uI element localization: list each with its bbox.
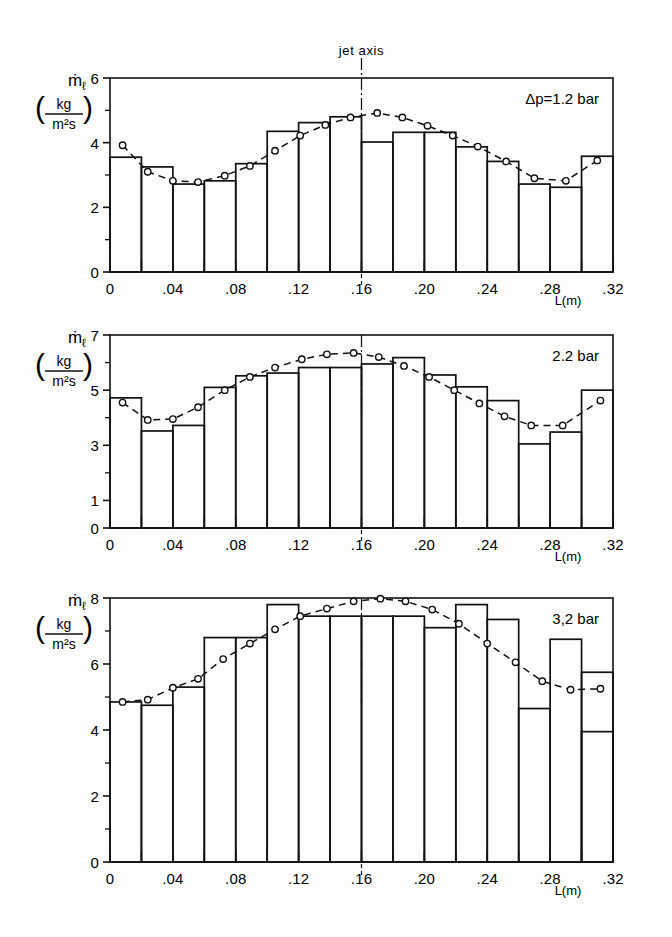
histogram-bar	[550, 639, 581, 862]
curve-marker	[195, 404, 201, 410]
curve-marker	[170, 416, 176, 422]
x-tick-label: .20	[414, 280, 435, 297]
histogram-bar	[236, 164, 267, 272]
curve-marker	[195, 179, 201, 185]
histogram-bar	[267, 605, 298, 862]
x-axis-label: L(m)	[555, 293, 582, 308]
curve-marker	[597, 686, 603, 692]
curve-marker	[247, 163, 253, 169]
histogram-bar	[236, 638, 267, 862]
y-tick-label: 7	[90, 327, 99, 344]
x-tick-label: .20	[414, 870, 435, 887]
curve-marker	[376, 354, 382, 360]
x-tick-label: .12	[288, 870, 309, 887]
curve-marker	[539, 678, 545, 684]
curve-marker	[195, 676, 201, 682]
x-tick-label: .32	[602, 870, 623, 887]
histogram-bar	[456, 605, 487, 862]
histogram-bar	[519, 184, 550, 272]
y-tick-label: 3	[90, 437, 99, 454]
chart-panel-2: 013570.04.08.12.16.20.24.28.322.2 barṁℓ…	[35, 327, 624, 564]
histogram-bar	[204, 638, 235, 862]
y-axis-symbol: ṁℓ	[68, 591, 86, 613]
curve-marker	[449, 132, 455, 138]
unit-denominator: m²s	[52, 636, 75, 652]
curve-marker	[145, 169, 151, 175]
curve-marker	[426, 374, 432, 380]
x-axis-label: L(m)	[555, 549, 582, 564]
x-tick-label: .32	[602, 280, 623, 297]
curve-marker	[119, 142, 125, 148]
histogram-bar	[550, 187, 581, 272]
curve-marker	[402, 598, 408, 604]
histogram-bar	[110, 398, 141, 528]
x-tick-label: .24	[477, 280, 498, 297]
histogram-bar	[456, 387, 487, 528]
histogram-bar	[141, 431, 172, 528]
histogram-bar	[267, 373, 298, 528]
x-tick-label: .12	[288, 280, 309, 297]
curve-marker	[220, 656, 226, 662]
histogram-bar	[204, 387, 235, 528]
y-tick-label: 2	[90, 788, 99, 805]
pressure-annotation: 2.2 bar	[552, 347, 599, 364]
curve-marker	[299, 356, 305, 362]
curve-marker	[475, 143, 481, 149]
y-axis-unit: ()kgm²s	[35, 91, 93, 132]
fitted-curve	[123, 113, 598, 182]
x-tick-label: .08	[225, 870, 246, 887]
pressure-annotation: Δp=1.2 bar	[525, 90, 599, 107]
curve-marker	[512, 659, 518, 665]
curve-marker	[401, 363, 407, 369]
histogram-bar	[582, 390, 613, 528]
histogram-bar	[424, 132, 455, 272]
y-tick-label: 8	[90, 590, 99, 607]
pressure-annotation: 3,2 bar	[552, 610, 599, 627]
histogram-bar	[362, 364, 393, 528]
histogram-bar	[236, 376, 267, 528]
y-tick-label: 0	[90, 520, 99, 537]
curve-marker	[424, 123, 430, 129]
x-tick-label: .24	[477, 536, 498, 553]
curve-marker	[456, 621, 462, 627]
curve-marker	[322, 122, 328, 128]
curve-marker	[222, 387, 228, 393]
x-tick-label: .04	[162, 870, 183, 887]
y-tick-label: 6	[90, 70, 99, 87]
x-tick-label: .08	[225, 280, 246, 297]
histogram-bar	[141, 167, 172, 272]
x-tick-label: .12	[288, 536, 309, 553]
y-tick-label: 0	[90, 854, 99, 871]
y-axis-symbol: ṁℓ	[68, 328, 86, 350]
histogram-bar	[424, 628, 455, 862]
curve-marker	[374, 110, 380, 116]
paren-right: )	[83, 348, 93, 381]
curve-marker	[247, 374, 253, 380]
histogram-bar	[173, 184, 204, 272]
x-tick-label: .04	[162, 280, 183, 297]
histogram-bar	[173, 687, 204, 862]
y-tick-label: 6	[90, 656, 99, 673]
curve-marker	[297, 613, 303, 619]
histogram-bar	[362, 142, 393, 272]
histogram-bar	[362, 616, 393, 862]
curve-marker	[560, 422, 566, 428]
curve-marker	[594, 157, 600, 163]
unit-numerator: kg	[57, 616, 72, 632]
jet-axis-annotation: jet axis	[338, 43, 384, 58]
curve-marker	[377, 595, 383, 601]
curve-marker	[297, 132, 303, 138]
unit-numerator: kg	[57, 96, 72, 112]
figure-sheet: jet axis02460.04.08.12.16.20.24.28.32Δp=…	[0, 0, 672, 937]
histogram-bar	[110, 157, 141, 272]
histogram-bar	[173, 425, 204, 528]
curve-marker	[272, 364, 278, 370]
curve-marker	[170, 685, 176, 691]
histogram-bar	[550, 432, 581, 528]
curve-marker	[597, 397, 603, 403]
x-tick-label: .20	[414, 536, 435, 553]
unit-numerator: kg	[57, 353, 72, 369]
curve-marker	[347, 114, 353, 120]
paren-left: (	[35, 348, 45, 381]
histogram-bar	[393, 616, 424, 862]
